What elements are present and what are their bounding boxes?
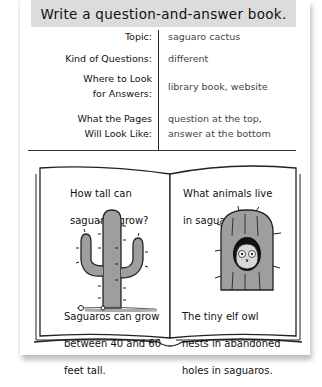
answer-line: nests in abandoned <box>182 337 281 351</box>
right-page-answer: The tiny elf owl nests in abandoned hole… <box>182 296 281 387</box>
elf-owl-in-saguaro-icon <box>215 206 285 296</box>
question-line: What animals live <box>183 187 272 201</box>
row-label-line1: Where to Look <box>83 72 152 85</box>
row-value: different <box>168 52 208 65</box>
row-value-line1: question at the top, <box>168 112 262 125</box>
left-page-answer: Saguaros can grow between 40 and 60 feet… <box>64 296 161 387</box>
column-divider <box>158 30 159 150</box>
section-divider <box>28 150 296 151</box>
answer-line: between 40 and 60 <box>64 337 161 351</box>
answer-line: The tiny elf owl <box>182 310 281 324</box>
row-label: Topic: <box>125 30 152 43</box>
question-line: How tall can <box>70 187 148 201</box>
row-value: saguaro cactus <box>168 30 240 43</box>
answer-line: Saguaros can grow <box>64 310 161 324</box>
row-value: library book, website <box>168 80 268 93</box>
answer-line: holes in saguaros. <box>182 364 281 378</box>
row-label-line2: Will Look Like: <box>84 127 152 140</box>
open-book-illustration: How tall can saguaros grow? <box>30 156 306 356</box>
row-value-line2: answer at the bottom <box>168 127 271 140</box>
row-label-line2: for Answers: <box>93 87 152 100</box>
banner-title: Write a question-and-answer book. <box>31 0 296 27</box>
plan-table: Topic: saguaro cactus Kind of Questions:… <box>20 28 310 150</box>
row-label: Kind of Questions: <box>65 52 152 65</box>
worksheet-card: Write a question-and-answer book. Topic:… <box>20 0 310 355</box>
row-label-line1: What the Pages <box>77 112 152 125</box>
answer-line: feet tall. <box>64 364 161 378</box>
